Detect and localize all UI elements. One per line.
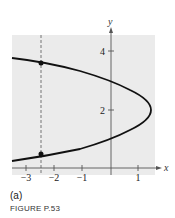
upper-intersection-point: [39, 61, 44, 66]
x-tick-label: −1: [77, 172, 88, 183]
y-tick-label: 2: [100, 105, 105, 116]
x-axis-label: x: [163, 162, 169, 173]
subfigure-label: (a): [10, 190, 22, 201]
y-axis-arrow-icon: [109, 27, 113, 33]
x-tick-label: 1: [136, 172, 141, 183]
figure-caption: FIGURE P.53: [10, 204, 60, 213]
x-tick-label: −2: [49, 172, 60, 183]
x-tick-label: −3: [21, 172, 32, 183]
plot-background: [12, 35, 155, 175]
y-tick-label: 4: [100, 46, 105, 57]
x-axis-arrow-icon: [156, 166, 162, 170]
parabola-chart: −3 −2 −1 1 4 2 x y: [0, 0, 175, 218]
lower-intersection-point: [39, 152, 44, 157]
y-axis-label: y: [107, 16, 113, 27]
